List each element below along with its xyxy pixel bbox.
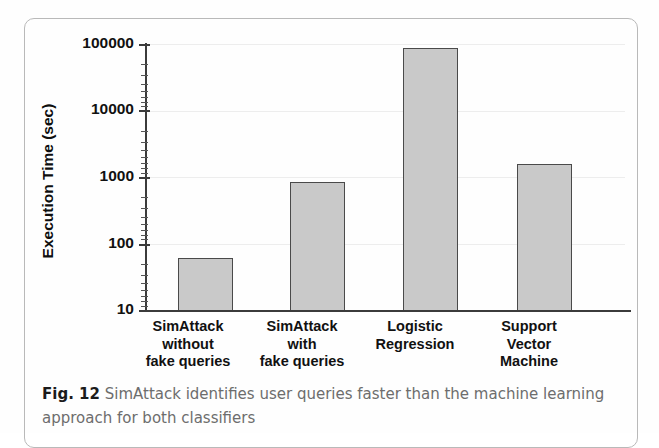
y-tick-minor <box>141 84 148 85</box>
y-tick-minor <box>141 142 148 143</box>
y-tick-minor <box>141 230 148 231</box>
y-tick-minor <box>141 106 148 107</box>
y-tick-label-10: 10 <box>24 300 134 318</box>
y-tick-minor <box>141 264 148 265</box>
plot-area <box>145 44 625 311</box>
y-tick-major-100000 <box>139 44 150 46</box>
y-tick-minor <box>141 150 148 151</box>
x-label-support-vector-machine: Support Vector Machine <box>459 318 599 371</box>
y-tick-minor <box>141 235 148 236</box>
caption-label: Fig. 12 <box>42 385 100 403</box>
y-tick-minor <box>141 168 148 169</box>
y-tick-minor <box>141 131 148 132</box>
bar-logistic-regression <box>403 48 458 311</box>
gridline-10000 <box>145 111 625 112</box>
figure-caption: Fig. 12 SimAttack identifies user querie… <box>42 382 617 430</box>
y-tick-minor <box>141 275 148 276</box>
y-axis-title: Execution Time (sec) <box>39 71 57 291</box>
y-tick-minor <box>141 157 148 158</box>
bar-chart: 100000 10000 1000 100 10 Execution Time … <box>0 0 659 380</box>
y-tick-minor <box>141 97 148 98</box>
y-tick-major-10000 <box>139 110 150 112</box>
bar-simattack-without-fake-queries <box>178 258 233 311</box>
y-tick-minor <box>141 197 148 198</box>
y-tick-minor <box>141 306 148 307</box>
y-tick-major-1000 <box>139 177 150 179</box>
y-tick-minor <box>141 102 148 103</box>
y-tick-minor <box>141 290 148 291</box>
y-tick-minor <box>141 217 148 218</box>
y-tick-minor <box>141 283 148 284</box>
y-tick-minor <box>141 64 148 65</box>
caption-text: SimAttack identifies user queries faster… <box>42 385 604 427</box>
y-tick-minor <box>141 301 148 302</box>
gridline-100000 <box>145 44 625 45</box>
y-tick-major-10 <box>139 310 150 312</box>
y-tick-major-100 <box>139 244 150 246</box>
y-tick-minor <box>141 91 148 92</box>
bar-support-vector-machine <box>517 164 572 311</box>
y-tick-minor <box>141 75 148 76</box>
y-tick-minor <box>141 208 148 209</box>
y-tick-minor <box>141 173 148 174</box>
y-tick-minor <box>141 239 148 240</box>
x-axis-line <box>145 310 631 312</box>
y-tick-minor <box>141 296 148 297</box>
y-tick-minor <box>141 163 148 164</box>
y-tick-minor <box>141 224 148 225</box>
y-tick-label-100000: 100000 <box>24 34 134 52</box>
bar-simattack-with-fake-queries <box>290 182 345 311</box>
